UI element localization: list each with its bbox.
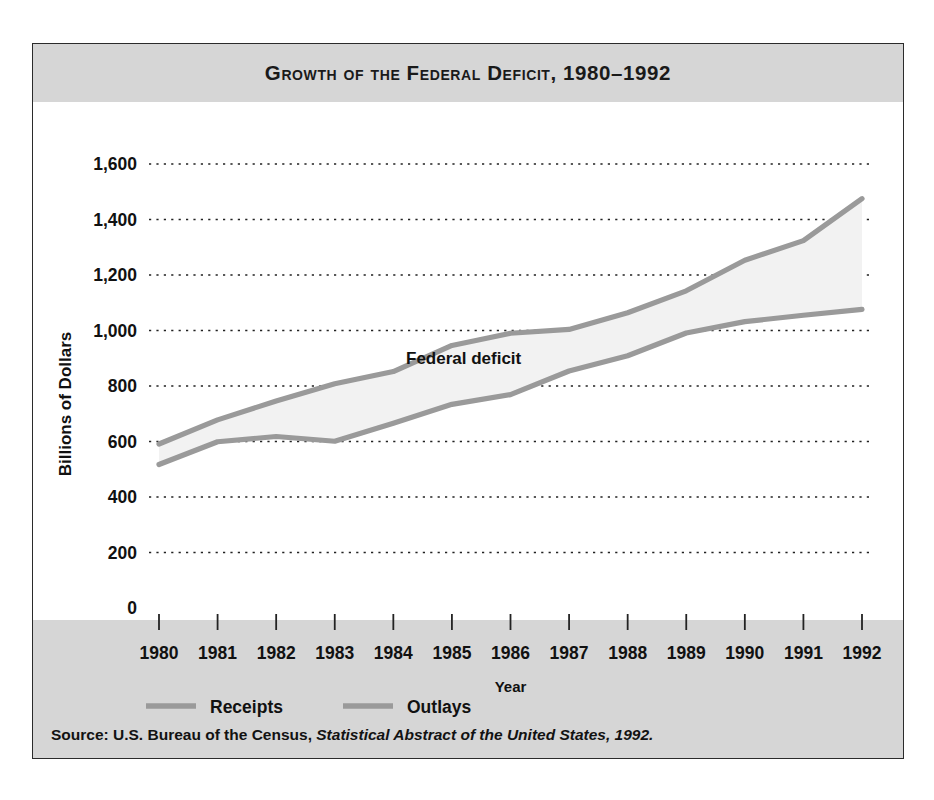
chart-svg: 02004006008001,0001,2001,4001,600 198019… [33,44,903,758]
x-tick-label: 1987 [550,643,589,663]
x-tick-label: 1985 [432,643,471,663]
legend-group: ReceiptsOutlays [146,697,471,717]
series-group [159,199,862,465]
x-tick-marks-group [159,614,862,630]
x-tick-label: 1988 [608,643,647,663]
y-tick-label: 800 [108,376,137,396]
y-tick-label: 0 [127,598,137,618]
y-tick-label: 1,000 [93,321,137,341]
figure-frame: Growth of the Federal Deficit, 1980–1992… [32,43,904,759]
y-tick-labels-group: 02004006008001,0001,2001,4001,600 [93,154,137,618]
x-tick-label: 1990 [725,643,764,663]
y-tick-label: 400 [108,487,137,507]
federal-deficit-annotation: Federal deficit [406,349,522,368]
x-tick-labels-group: 1980198119821983198419851986198719881989… [140,643,882,663]
x-tick-label: 1991 [784,643,823,663]
x-tick-label: 1981 [198,643,237,663]
x-tick-label: 1986 [491,643,530,663]
x-tick-label: 1983 [315,643,354,663]
annotations-group: Federal deficit [406,349,522,368]
x-tick-label: 1982 [257,643,296,663]
legend-label-outlays: Outlays [407,697,471,717]
y-tick-label: 1,600 [93,154,137,174]
y-tick-label: 1,200 [93,265,137,285]
y-tick-label: 200 [108,543,137,563]
x-tick-label: 1980 [140,643,179,663]
x-tick-label: 1989 [667,643,706,663]
y-tick-label: 1,400 [93,210,137,230]
y-tick-label: 600 [108,432,137,452]
x-tick-label: 1992 [843,643,882,663]
legend-label-receipts: Receipts [210,697,283,717]
x-axis-title: Year [495,678,527,695]
y-axis-title: Billions of Dollars [56,332,75,477]
x-tick-label: 1984 [374,643,413,663]
